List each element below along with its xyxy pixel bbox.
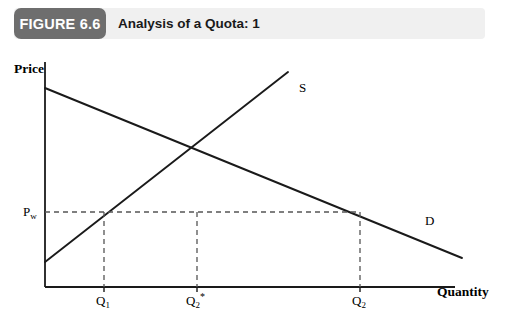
supply-curve (45, 72, 288, 262)
x-axis-title: Quantity (437, 285, 489, 299)
figure-number-badge: FIGURE 6.6 (14, 8, 106, 39)
q2star-tick-label: Q2* (186, 294, 205, 307)
world-price-tick-label: Pw (23, 205, 37, 218)
demand-curve-label: D (425, 214, 434, 227)
q1-tick-label: Q1 (96, 294, 110, 307)
figure-title: Analysis of a Quota: 1 (118, 8, 260, 39)
figure-number-label: FIGURE 6.6 (20, 16, 101, 32)
q1-subscript: 1 (105, 300, 110, 310)
q2-subscript: 2 (361, 300, 366, 310)
y-axis-title: Price (14, 62, 44, 76)
q2-base: Q (352, 293, 361, 308)
q1-base: Q (96, 293, 105, 308)
demand-curve (45, 88, 462, 258)
figure-container: FIGURE 6.6 Analysis of a Quota: 1 (0, 0, 506, 323)
q2star-base: Q (186, 293, 195, 308)
q2star-superscript: * (200, 291, 205, 302)
supply-curve-label: S (299, 81, 306, 94)
q2-tick-label: Q2 (352, 294, 366, 307)
world-price-subscript: w (30, 211, 37, 221)
plot-svg (0, 44, 506, 323)
plot-area: Price Quantity S D Pw Q1 Q2* Q2 (0, 44, 506, 323)
